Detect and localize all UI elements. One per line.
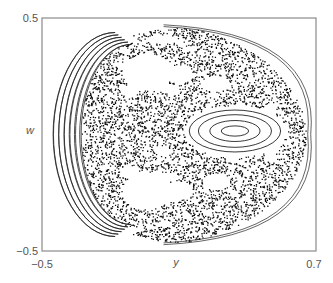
x-axis-label: y [172,256,180,268]
poincare-section-chart: 0.5 −0.5 −0.5 0.7 w y [0,0,333,283]
y-tick-label-top: 0.5 [23,12,38,24]
x-tick-label-left: −0.5 [31,258,53,270]
y-axis-label: w [26,124,35,136]
y-tick-label-bottom: −0.5 [16,245,38,257]
x-tick-label-right: 0.7 [306,258,321,270]
